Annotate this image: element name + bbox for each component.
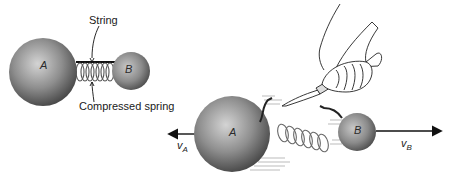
diagram-graphic <box>0 0 454 182</box>
compressed-spring-label: Compressed spring <box>79 100 174 112</box>
momentum-diagram: String Compressed spring A B A B vA vB <box>0 0 454 182</box>
string-leader-line <box>92 26 99 58</box>
ball-b-after-label: B <box>354 124 361 136</box>
ball-b-before-label: B <box>125 63 132 75</box>
after-group <box>170 4 440 172</box>
ball-a-before <box>9 38 77 106</box>
cut-string-b <box>320 106 342 118</box>
hand-with-knife-icon <box>282 4 382 106</box>
velocity-b-label: vB <box>401 137 412 152</box>
ball-a-after-label: A <box>229 126 236 138</box>
string-label: String <box>89 14 118 26</box>
compressed-spring-icon <box>76 63 114 81</box>
velocity-a-label: vA <box>177 139 188 154</box>
released-spring-icon <box>276 123 330 153</box>
ball-a-before-label: A <box>40 59 47 71</box>
